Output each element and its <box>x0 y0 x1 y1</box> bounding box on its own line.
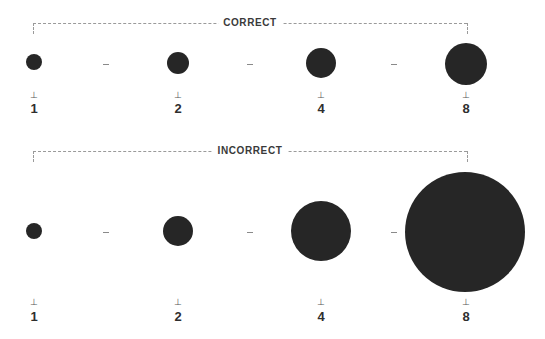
tick-mark-icon: ⊥ <box>174 298 182 307</box>
value-label: 1 <box>30 310 37 324</box>
separator-dash <box>391 232 397 233</box>
tick-mark-icon: ⊥ <box>462 298 470 307</box>
incorrect-circle-8 <box>405 172 525 292</box>
incorrect-label: INCORRECT <box>213 145 288 157</box>
value-label: 4 <box>317 310 324 324</box>
incorrect-bracket-left-drop <box>33 151 34 162</box>
separator-dash <box>103 232 109 233</box>
tick-mark-icon: ⊥ <box>30 298 38 307</box>
value-label: 8 <box>462 310 469 324</box>
tick-mark-icon: ⊥ <box>317 298 325 307</box>
incorrect-circle-2 <box>163 216 193 246</box>
incorrect-bracket-right-drop <box>467 151 468 162</box>
value-label: 2 <box>174 310 181 324</box>
incorrect-circle-1 <box>26 223 42 239</box>
incorrect-circle-4 <box>291 201 351 261</box>
separator-dash <box>247 232 253 233</box>
incorrect-section: INCORRECT ⊥ ⊥ ⊥ ⊥ 1 2 4 8 <box>0 0 545 339</box>
